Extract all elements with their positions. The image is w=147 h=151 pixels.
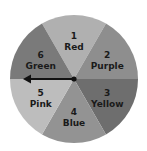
sector-number: 4 (71, 107, 77, 117)
sector-number: 3 (104, 88, 110, 98)
sector-number: 1 (71, 31, 77, 41)
sector-label: Red (64, 42, 83, 52)
sector-label: Purple (91, 61, 124, 71)
sector-number: 6 (38, 50, 44, 60)
sector-label: Pink (30, 99, 53, 109)
sector-label: Yellow (90, 99, 123, 109)
sector-label: Green (26, 61, 56, 71)
sector-number: 5 (38, 88, 44, 98)
spinner-wheel: 1Red2Purple3Yellow4Blue5Pink6Green (0, 0, 147, 151)
sector-label: Blue (63, 118, 85, 128)
pivot-dot (71, 76, 76, 81)
sector-number: 2 (104, 50, 110, 60)
